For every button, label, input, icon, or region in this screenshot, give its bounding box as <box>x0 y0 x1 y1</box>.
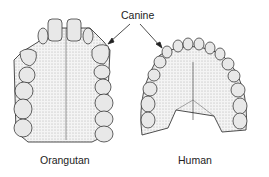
canine-label: Canine <box>121 9 154 21</box>
orangutan-palate <box>14 19 113 142</box>
human-label: Human <box>178 154 212 166</box>
dentition-diagram: Canine Orangutan Human <box>0 0 269 177</box>
orangutan-label: Orangutan <box>40 154 90 166</box>
diagram-graphic <box>0 0 269 177</box>
canine-arrows <box>108 24 162 48</box>
human-palate <box>141 38 247 135</box>
